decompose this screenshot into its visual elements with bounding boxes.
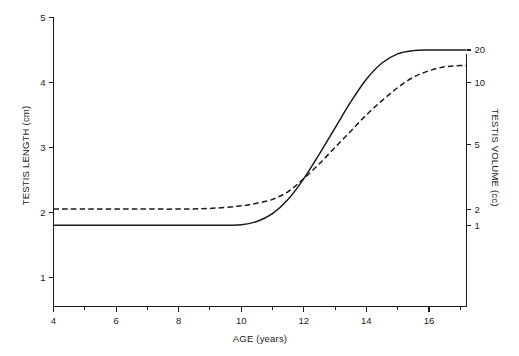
y-axis-left-title: TESTIS LENGTH (cm) (20, 76, 31, 236)
y-tick-label-left: 2 (40, 207, 45, 218)
y-tick-label-right: 20 (475, 44, 486, 55)
chart-plot-area: 12345125102046810121416 (0, 0, 519, 356)
x-tick-label: 12 (299, 315, 310, 326)
x-axis-title: AGE (years) (180, 333, 340, 344)
chart-figure: 12345125102046810121416 TESTIS LENGTH (c… (0, 0, 519, 356)
y-tick-label-left: 3 (40, 142, 45, 153)
series-dashed-curve (54, 65, 467, 209)
y-tick-label-right: 2 (475, 204, 480, 215)
y-tick-label-right: 1 (475, 220, 480, 231)
x-tick-label: 14 (361, 315, 372, 326)
x-tick-label: 16 (424, 315, 435, 326)
series-solid-curve (54, 50, 467, 225)
x-tick-label: 8 (176, 315, 181, 326)
clipped-caption (0, 349, 519, 356)
y-axis-right-title: TESTIS VOLUME (cc) (490, 78, 501, 238)
y-tick-label-left: 1 (40, 272, 45, 283)
y-tick-label-left: 5 (40, 12, 45, 23)
tick-marks (49, 18, 471, 312)
data-series (54, 50, 467, 225)
x-tick-label: 10 (236, 315, 247, 326)
y-tick-label-right: 10 (475, 77, 486, 88)
x-tick-label: 4 (51, 315, 56, 326)
tick-labels: 12345125102046810121416 (40, 12, 485, 326)
x-tick-label: 6 (113, 315, 118, 326)
y-tick-label-right: 5 (475, 139, 480, 150)
y-tick-label-left: 4 (40, 77, 45, 88)
axes (54, 18, 467, 307)
